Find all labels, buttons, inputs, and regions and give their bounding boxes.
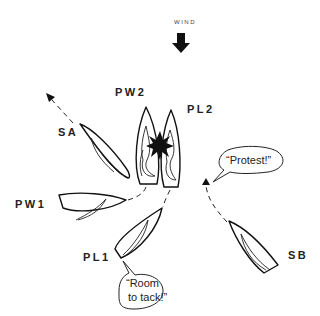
- sailing-diagram: WIND SA PW2 PL2 PW1 PL1: [0, 0, 320, 316]
- track-sb: [206, 186, 227, 222]
- boat-pl1: [115, 208, 162, 258]
- speech-bubble-room-to-tack: “Room to tack!”: [119, 261, 167, 309]
- speech-protest: “Protest!”: [226, 154, 272, 166]
- boat-label-pl2: PL2: [187, 103, 215, 115]
- boat-label-pl1: PL1: [83, 251, 111, 263]
- wind-label: WIND: [174, 19, 196, 25]
- arrow-down-icon: [172, 33, 190, 53]
- speech-bubble-protest: “Protest!”: [213, 146, 283, 182]
- track-pw1: [128, 187, 146, 200]
- wind-indicator: WIND: [172, 19, 196, 53]
- track-arrow-sa-icon: [46, 93, 55, 102]
- speech-room-line1: “Room: [126, 277, 159, 289]
- track-pl1: [163, 190, 170, 207]
- boat-sb: [229, 221, 278, 273]
- track-arrow-sb-icon: [202, 178, 210, 185]
- track-sa: [52, 100, 73, 123]
- boat-label-sb: SB: [288, 249, 308, 261]
- boat-label-pw1: PW1: [15, 198, 46, 210]
- boat-sa: [80, 124, 129, 178]
- boat-pw1: [59, 193, 126, 220]
- speech-room-line2: to tack!”: [128, 291, 167, 303]
- boat-label-sa: SA: [58, 126, 78, 138]
- boat-label-pw2: PW2: [115, 86, 146, 98]
